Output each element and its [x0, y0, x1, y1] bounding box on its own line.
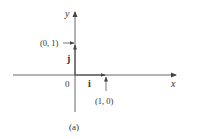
figure-caption: (a) [69, 122, 79, 132]
x-axis-label: x [170, 78, 176, 89]
point-0-1-label: (0, 1) [40, 38, 59, 48]
y-axis-label: y [64, 8, 70, 19]
j-vector-label: j [66, 53, 70, 64]
i-vector-label: i [88, 78, 91, 89]
origin-label: 0 [65, 79, 70, 89]
point-1-0-label: (1, 0) [95, 96, 114, 106]
unit-vectors-diagram: y x 0 i j (1, 0) (0, 1) (a) [0, 0, 216, 139]
